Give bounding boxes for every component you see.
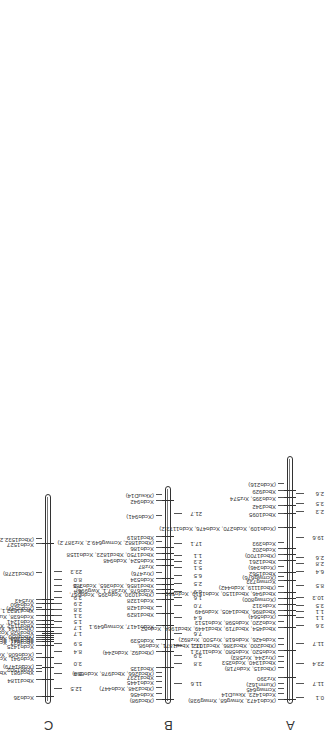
- distance-value: 1.1: [316, 608, 324, 615]
- marker-label: Xbcd1428: [127, 604, 154, 611]
- distance-leader-line: [54, 579, 62, 580]
- marker-label: (Xcdo109, Xcdo270, Xcdo476, Xcdo1173.2): [159, 525, 276, 532]
- distance-value: 3.1: [74, 612, 82, 619]
- marker-leader-line: [156, 687, 162, 688]
- locus-tick: [284, 699, 296, 700]
- marker-leader-line: [36, 653, 42, 654]
- marker-label: Xcdo186: [130, 545, 154, 552]
- distance-value: 3.8: [194, 660, 202, 667]
- marker-leader-line: [278, 497, 284, 498]
- distance-leader-line: [54, 643, 62, 644]
- marker-leader-line: [36, 637, 42, 638]
- marker-leader-line: [36, 607, 42, 608]
- distance-leader-line: [296, 663, 304, 664]
- marker-label: Xcdo638, Xumn133: [0, 613, 34, 620]
- locus-tick: [284, 554, 296, 555]
- marker-leader-line: [278, 621, 284, 622]
- distance-value: 12.5: [70, 685, 82, 692]
- distance-leader-line: [54, 633, 62, 634]
- marker-leader-line: [156, 667, 162, 668]
- marker-leader-line: [156, 651, 162, 652]
- marker-label: (Xbcd1278): [3, 570, 34, 577]
- locus-tick: [284, 604, 296, 605]
- marker-leader-line: [156, 541, 162, 542]
- marker-leader-line: [156, 553, 162, 554]
- distance-leader-line: [54, 627, 62, 628]
- distance-leader-line: [54, 621, 62, 622]
- locus-tick: [162, 699, 174, 700]
- marker-label: (Xcdo941): [126, 513, 154, 520]
- locus-tick: [284, 627, 296, 628]
- marker-label: (Xbcd92, Xcdo244): [103, 649, 154, 656]
- distance-leader-line: [174, 583, 182, 584]
- marker-leader-line: [156, 536, 162, 537]
- locus-tick: [42, 639, 54, 640]
- distance-value: 6.4: [316, 568, 324, 575]
- distance-value: 3.5: [316, 602, 324, 609]
- marker-leader-line: [156, 589, 162, 590]
- marker-label: Xbcd1095: [249, 511, 276, 518]
- distance-value: 5.1: [194, 564, 202, 571]
- locus-tick: [162, 599, 174, 600]
- marker-leader-line: [156, 547, 162, 548]
- marker-leader-line: [156, 578, 162, 579]
- marker-leader-line: [278, 560, 284, 561]
- locus-tick: [42, 641, 54, 642]
- locus-tick: [42, 615, 54, 616]
- locus-tick: [284, 548, 296, 549]
- locus-tick: [42, 631, 54, 632]
- marker-label: Xbcd1819: [127, 534, 154, 541]
- marker-label: Xcdo202: [252, 546, 276, 553]
- marker-leader-line: [278, 656, 284, 657]
- marker-leader-line: [36, 599, 42, 600]
- distance-leader-line: [54, 651, 62, 652]
- locus-tick: [284, 592, 296, 593]
- marker-label: (Xumn162): [246, 681, 276, 688]
- distance-value: 3.6: [316, 622, 324, 629]
- distance-value: 3.5: [316, 500, 324, 507]
- genetic-map-page: M.E. Sorrells, G. Pedak, S.J. Molnar, H.…: [0, 0, 333, 744]
- marker-leader-line: [36, 639, 42, 640]
- marker-leader-line: [278, 554, 284, 555]
- marker-leader-line: [36, 696, 42, 697]
- marker-leader-line: [278, 699, 284, 700]
- marker-leader-line: [156, 500, 162, 501]
- marker-leader-line: [156, 676, 162, 677]
- locus-tick: [162, 584, 174, 585]
- distance-leader-line: [296, 537, 304, 538]
- locus-tick: [284, 598, 296, 599]
- marker-label: Xbcd1856, Xcdo365, Xcdo385: [73, 582, 154, 589]
- distance-leader-line: [174, 633, 182, 634]
- marker-label: Xcdo395, Xrz574: [230, 495, 276, 502]
- distance-value: 1.7: [74, 624, 82, 631]
- distance-leader-line: [174, 555, 182, 556]
- marker-leader-line: [36, 538, 42, 539]
- distance-value: 3.8: [74, 606, 82, 613]
- marker-label: (Xcdo1473, Xmwg68, Xmwg938): [188, 697, 276, 704]
- distance-value: 2.6: [316, 490, 324, 497]
- marker-label: Xcdo393: [252, 540, 276, 547]
- marker-label: Xcdo1328: [127, 597, 154, 604]
- marker-leader-line: [36, 620, 42, 621]
- distance-value: 10.3: [312, 594, 324, 601]
- distance-leader-line: [174, 513, 182, 514]
- marker-leader-line: [36, 624, 42, 625]
- distance-leader-line: [296, 617, 304, 618]
- chromosome-label: A: [286, 718, 295, 733]
- marker-leader-line: [36, 627, 42, 628]
- locus-tick: [42, 599, 54, 600]
- distance-value: 11.7: [313, 640, 324, 647]
- marker-leader-line: [278, 604, 284, 605]
- distance-leader-line: [296, 563, 304, 564]
- distance-value: 2.5: [194, 580, 202, 587]
- distance-leader-line: [174, 597, 182, 598]
- marker-label: (Xrz476): [131, 570, 154, 577]
- marker-label: Xcdo524, Xcdo948: [103, 557, 154, 564]
- marker-leader-line: [36, 668, 42, 669]
- distance-leader-line: [54, 673, 62, 674]
- distance-leader-line: [174, 617, 182, 618]
- locus-tick: [284, 677, 296, 678]
- marker-leader-line: [278, 542, 284, 543]
- locus-tick: [42, 624, 54, 625]
- marker-label: (Xbcd15, Xcdo718): [225, 665, 276, 672]
